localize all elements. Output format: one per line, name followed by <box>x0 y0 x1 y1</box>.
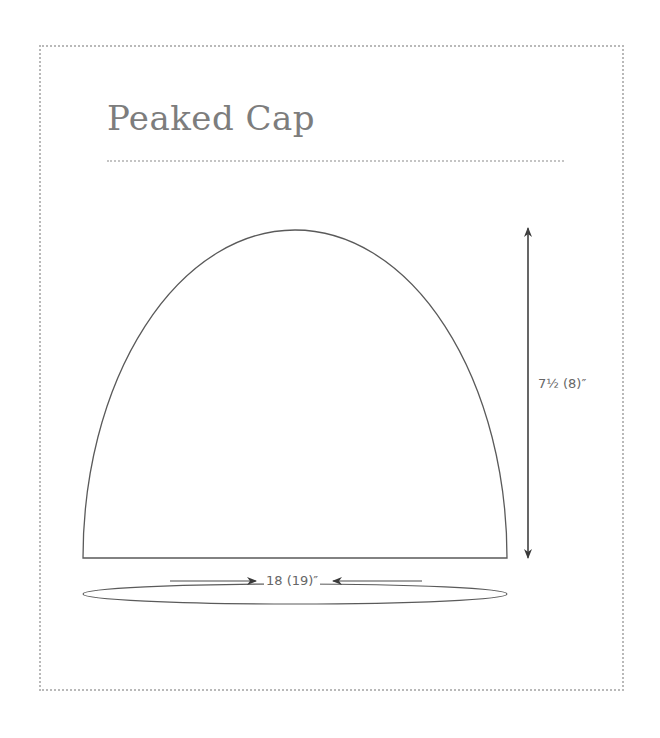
cap-outline <box>83 230 507 558</box>
cap-schematic <box>0 0 660 738</box>
height-dimension-label: 7½ (8)″ <box>538 376 586 391</box>
circumference-dimension-label: 18 (19)″ <box>264 573 320 588</box>
